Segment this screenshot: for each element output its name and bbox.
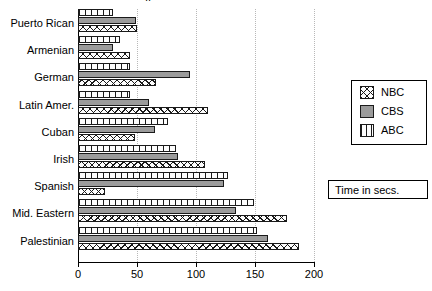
bar-nbc[interactable] xyxy=(78,161,205,168)
bar-cbs[interactable] xyxy=(78,235,268,242)
x-axis-tick-label: 0 xyxy=(58,268,98,280)
bar-group xyxy=(78,9,314,35)
category-label: German xyxy=(0,71,74,83)
bar-abc[interactable] xyxy=(78,145,176,152)
category-label: Armenian xyxy=(0,44,74,56)
x-axis-tick-label: 50 xyxy=(117,268,157,280)
category-axis-labels: Puerto RicanArmenianGermanLatin Amer.Cub… xyxy=(0,0,74,291)
category-label: Irish xyxy=(0,153,74,165)
time-units-note: Time in secs. xyxy=(328,180,428,199)
bar-group xyxy=(78,172,314,198)
bar-abc[interactable] xyxy=(78,118,168,125)
bar-group xyxy=(78,145,314,171)
bar-abc[interactable] xyxy=(78,91,130,98)
category-label: Spanish xyxy=(0,180,74,192)
x-axis-tick-label: 100 xyxy=(176,268,216,280)
bar-cbs[interactable] xyxy=(78,153,178,160)
bar-cbs[interactable] xyxy=(78,207,236,214)
plot-area xyxy=(78,9,314,261)
crosshatch-swatch-icon xyxy=(360,86,374,99)
solid-gray-swatch-icon xyxy=(360,105,374,118)
x-axis-tick-label: 200 xyxy=(294,268,334,280)
chart-title-text: .. xyxy=(145,0,151,3)
category-label: Puerto Rican xyxy=(0,17,74,29)
category-label: Mid. Eastern xyxy=(0,207,74,219)
bar-abc[interactable] xyxy=(78,199,254,206)
bar-group xyxy=(78,36,314,62)
category-label: Palestinian xyxy=(0,235,74,247)
category-label: Latin Amer. xyxy=(0,99,74,111)
x-axis-tick xyxy=(314,262,315,267)
bar-nbc[interactable] xyxy=(78,215,287,222)
bar-group xyxy=(78,63,314,89)
bar-nbc[interactable] xyxy=(78,25,137,32)
bar-nbc[interactable] xyxy=(78,134,135,141)
bar-abc[interactable] xyxy=(78,172,228,179)
bar-cbs[interactable] xyxy=(78,44,113,51)
chart-root: .. Puerto RicanArmenianGermanLatin Amer.… xyxy=(0,0,432,291)
legend-label-abc: ABC xyxy=(381,124,404,137)
time-units-note-text: Time in secs. xyxy=(335,184,399,196)
bar-abc[interactable] xyxy=(78,9,113,16)
category-label: Cuban xyxy=(0,126,74,138)
gridline xyxy=(314,9,315,262)
bar-cbs[interactable] xyxy=(78,126,155,133)
bar-group xyxy=(78,118,314,144)
bar-group xyxy=(78,199,314,225)
x-axis-tick-label: 150 xyxy=(235,268,275,280)
bar-group xyxy=(78,227,314,253)
bar-cbs[interactable] xyxy=(78,99,149,106)
bar-group xyxy=(78,91,314,117)
x-axis-tick xyxy=(196,262,197,267)
bar-abc[interactable] xyxy=(78,227,257,234)
bar-nbc[interactable] xyxy=(78,52,130,59)
bar-cbs[interactable] xyxy=(78,180,224,187)
vertical-lines-swatch-icon xyxy=(360,124,374,137)
bar-nbc[interactable] xyxy=(78,188,105,195)
bar-cbs[interactable] xyxy=(78,17,136,24)
bar-cbs[interactable] xyxy=(78,71,190,78)
legend-label-cbs: CBS xyxy=(381,105,404,118)
legend-box: NBC CBS ABC xyxy=(351,80,427,145)
bar-nbc[interactable] xyxy=(78,243,299,250)
bar-abc[interactable] xyxy=(78,36,120,43)
bar-abc[interactable] xyxy=(78,63,130,70)
x-axis-tick xyxy=(137,262,138,267)
legend-label-nbc: NBC xyxy=(381,86,404,99)
bar-nbc[interactable] xyxy=(78,79,156,86)
x-axis-tick xyxy=(255,262,256,267)
x-axis-tick xyxy=(78,262,79,267)
bar-nbc[interactable] xyxy=(78,107,208,114)
